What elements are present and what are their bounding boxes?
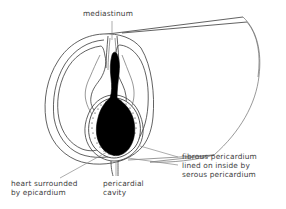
label-cavity-line2: cavity (103, 188, 127, 197)
label-fibrous-line2: lined on inside by (182, 161, 250, 170)
label-mediastinum: mediastinum (83, 9, 133, 18)
leader-fibrous-1 (140, 146, 178, 157)
label-fibrous-line1: fibrous pericardium (182, 152, 257, 161)
anatomy-figure: mediastinum heart surrounded by epicardi… (0, 0, 286, 209)
label-heart-line1: heart surrounded (11, 179, 78, 188)
label-cavity-line1: pericardial (103, 179, 144, 188)
leader-fibrous-2 (128, 158, 178, 165)
label-heart-line2: by epicardium (11, 188, 66, 197)
label-fibrous-line3: serous pericardium (182, 170, 256, 179)
